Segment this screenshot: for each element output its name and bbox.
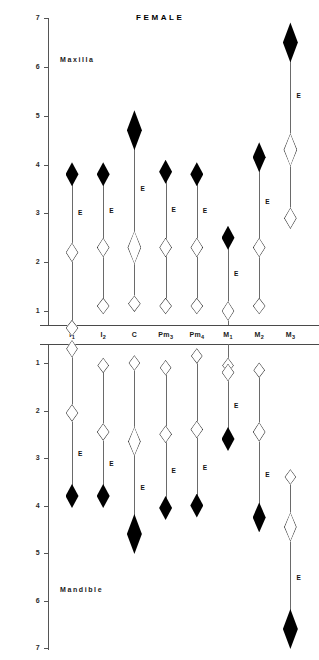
- stem-mandible-M2: [259, 370, 260, 517]
- tooth-label-C: C: [119, 331, 149, 338]
- maxilla-tickmark-6: [44, 67, 48, 68]
- stem-mandible-M3: [290, 477, 291, 629]
- maxilla-tickmark-2: [44, 262, 48, 263]
- chart-title: FEMALE: [136, 13, 185, 22]
- maxilla-tickmark-7: [44, 18, 48, 19]
- mandible-tick-7: 7: [24, 644, 40, 651]
- marker-open-mid-mandible-Pm4: [190, 421, 203, 439]
- mandible-tickmark-5: [44, 553, 48, 554]
- mandible-tickmark-6: [44, 601, 48, 602]
- tooth-band-top-rule: [40, 325, 319, 326]
- marker-solid-maxilla-Pm3: [159, 160, 172, 184]
- marker-open-mid-maxilla-M2: [253, 238, 266, 258]
- marker-open-top-mandible-C: [128, 355, 140, 371]
- e-label-mandible-C: E: [140, 484, 145, 491]
- marker-open-mid-maxilla-I2: [97, 238, 110, 258]
- marker-open-mid-maxilla-I1: [66, 242, 79, 262]
- maxilla-tickmark-3: [44, 213, 48, 214]
- marker-open-top-mandible-Pm4: [191, 348, 203, 364]
- marker-open-mid-mandible-M3: [284, 512, 297, 542]
- marker-open-low-maxilla-M2: [253, 298, 266, 315]
- maxilla-tick-7: 7: [24, 14, 40, 21]
- marker-solid-mandible-M1: [222, 427, 235, 451]
- e-label-maxilla-Pm4: E: [203, 207, 208, 214]
- maxilla-y-axis: [48, 18, 49, 325]
- maxilla-tick-2: 2: [24, 258, 40, 265]
- mandible-tick-4: 4: [24, 502, 40, 509]
- marker-solid-mandible-C: [127, 514, 142, 554]
- marker-open-low-maxilla-Pm4: [190, 298, 203, 315]
- tooth-label-Pm3: Pm3: [151, 331, 181, 340]
- maxilla-tick-4: 4: [24, 161, 40, 168]
- e-label-mandible-Pm3: E: [172, 467, 177, 474]
- marker-open-mid-maxilla-Pm4: [190, 238, 203, 258]
- e-label-maxilla-I2: E: [109, 207, 114, 214]
- marker-open-mid-maxilla-M1: [222, 301, 235, 321]
- tooth-label-Pm4: Pm4: [182, 331, 212, 340]
- mandible-tick-3: 3: [24, 454, 40, 461]
- mandible-tick-1: 1: [24, 359, 40, 366]
- mandible-tickmark-2: [44, 411, 48, 412]
- e-label-maxilla-C: E: [140, 185, 145, 192]
- e-label-maxilla-I1: E: [78, 209, 83, 216]
- tooth-label-I2: I2: [88, 331, 118, 340]
- maxilla-tickmark-5: [44, 116, 48, 117]
- marker-open-mid-mandible-Pm3: [159, 425, 172, 443]
- maxilla-tickmark-4: [44, 165, 48, 166]
- marker-solid-maxilla-C: [127, 110, 142, 150]
- marker-open-low-maxilla-I1: [66, 320, 79, 337]
- marker-open-mid-maxilla-M3: [283, 133, 297, 167]
- e-label-maxilla-M1: E: [234, 270, 239, 277]
- tooth-label-M1: M1: [213, 331, 243, 340]
- e-label-mandible-M2: E: [265, 471, 270, 478]
- mandible-tick-6: 6: [24, 597, 40, 604]
- dental-emergence-chart: FEMALE Maxilla Mandible 7654321 1234567 …: [0, 0, 319, 660]
- marker-open-mid-mandible-C: [128, 426, 141, 456]
- marker-open-top-mandible-M2: [253, 362, 265, 378]
- maxilla-tick-1: 1: [24, 307, 40, 314]
- e-label-maxilla-M2: E: [265, 198, 270, 205]
- marker-open-mid-maxilla-C: [127, 231, 141, 265]
- stem-maxilla-C: [134, 130, 135, 303]
- mandible-tickmark-4: [44, 506, 48, 507]
- maxilla-tick-5: 5: [24, 112, 40, 119]
- marker-solid-maxilla-I1: [66, 162, 79, 186]
- marker-solid-maxilla-M1: [222, 226, 235, 250]
- tooth-label-M2: M2: [244, 331, 274, 340]
- maxilla-tick-6: 6: [24, 63, 40, 70]
- e-label-mandible-M1: E: [234, 402, 239, 409]
- marker-open-low-maxilla-I2: [97, 298, 110, 315]
- mandible-tick-2: 2: [24, 407, 40, 414]
- tooth-label-M3: M3: [275, 331, 305, 340]
- stem-mandible-I1: [72, 349, 73, 496]
- marker-solid-mandible-M3: [283, 609, 298, 649]
- mandible-tickmark-1: [44, 363, 48, 364]
- marker-solid-mandible-I2: [97, 484, 110, 508]
- marker-solid-mandible-Pm3: [159, 496, 172, 520]
- marker-open-low-maxilla-M3: [284, 207, 297, 229]
- marker-open-low-maxilla-C: [128, 295, 141, 312]
- mandible-section-label: Mandible: [60, 586, 103, 593]
- maxilla-section-label: Maxilla: [60, 56, 95, 63]
- marker-solid-mandible-I1: [66, 484, 79, 508]
- stem-maxilla-M3: [290, 42, 291, 218]
- e-label-maxilla-M3: E: [296, 92, 301, 99]
- e-label-mandible-I1: E: [78, 450, 83, 457]
- marker-solid-maxilla-Pm4: [190, 162, 203, 186]
- e-label-mandible-Pm4: E: [203, 464, 208, 471]
- marker-open-top-mandible-I2: [97, 357, 109, 373]
- marker-solid-mandible-Pm4: [190, 494, 203, 518]
- marker-open-mid-mandible-I1: [66, 404, 79, 422]
- marker-open-top-mandible-Pm3: [160, 360, 172, 376]
- marker-solid-maxilla-M2: [253, 142, 266, 172]
- marker-open-low-maxilla-Pm3: [159, 298, 172, 315]
- e-label-mandible-I2: E: [109, 460, 114, 467]
- marker-solid-mandible-M2: [253, 502, 266, 532]
- marker-open-mid-mandible-M2: [253, 422, 266, 442]
- stem-maxilla-M2: [259, 157, 260, 306]
- marker-solid-maxilla-I2: [97, 162, 110, 186]
- mandible-tick-5: 5: [24, 549, 40, 556]
- tooth-band-bottom-rule: [40, 344, 319, 345]
- maxilla-tickmark-1: [44, 311, 48, 312]
- e-label-mandible-M3: E: [296, 574, 301, 581]
